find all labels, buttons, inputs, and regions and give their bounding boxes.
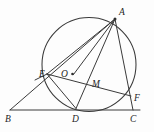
- segment-a-e: [47, 19, 115, 74]
- point-label-f: F: [133, 93, 140, 103]
- center-dot-o: [71, 73, 74, 76]
- point-label-c: C: [130, 114, 137, 124]
- circle-o: [42, 18, 136, 112]
- segment-e-d: [47, 74, 76, 109]
- vertex-dot-a: [114, 18, 117, 21]
- segment-e-m-f: [47, 74, 131, 96]
- point-label-d: D: [71, 114, 79, 124]
- geometry-canvas: A B C D E F M O: [0, 0, 154, 132]
- point-label-a: A: [118, 7, 125, 17]
- segment-b-e-a: [10, 19, 115, 110]
- point-label-e: E: [38, 69, 45, 79]
- geometry-figure: A B C D E F M O: [0, 0, 154, 132]
- point-label-b: B: [5, 114, 11, 124]
- point-label-m: M: [91, 79, 101, 89]
- point-label-o: O: [61, 69, 68, 79]
